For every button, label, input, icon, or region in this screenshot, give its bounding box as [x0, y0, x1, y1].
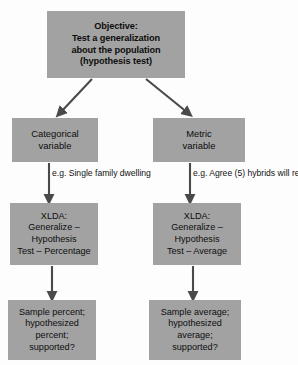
connector-objective-to-metric	[146, 79, 188, 113]
node-xlda-percentage: XLDA: Generalize – Hypothesis Test – Per…	[10, 203, 98, 265]
node-categorical-line-1: Categorical	[31, 128, 78, 140]
node-metric-variable: Metric variable	[153, 118, 245, 162]
node-categorical-variable: Categorical variable	[12, 118, 98, 162]
node-result-right-line-2: hypothesized	[168, 318, 222, 330]
node-result-right-line-3: average;	[177, 330, 212, 342]
node-metric-line-1: Metric	[186, 128, 212, 140]
node-xlda-average: XLDA: Generalize – Hypothesis Test – Ave…	[153, 203, 241, 265]
node-result-average: Sample average; hypothesized average; su…	[149, 300, 241, 360]
node-xlda-right-line-4: Test – Average	[167, 246, 227, 258]
edge-label-categorical-line-1: e.g. Single family	[52, 168, 117, 178]
node-objective-line-4: (hypothesis test)	[80, 56, 152, 68]
node-result-left-line-3: percent;	[36, 330, 69, 342]
node-xlda-right-line-2: Generalize –	[171, 222, 223, 234]
edge-label-metric-example: e.g. Agree (5) hybrids will reduce emiss…	[193, 168, 298, 179]
edge-label-metric-line-1: e.g. Agree (5) hybrids	[193, 168, 275, 178]
node-objective: Objective: Test a generalization about t…	[47, 11, 185, 78]
node-objective-line-2: Test a generalization	[72, 33, 160, 45]
node-xlda-right-line-3: Hypothesis	[175, 234, 220, 246]
node-result-left-line-4: supported?	[29, 342, 75, 354]
node-result-right-line-1: Sample average;	[161, 307, 230, 319]
node-result-right-line-4: supported?	[172, 342, 218, 354]
node-xlda-right-line-1: XLDA:	[184, 211, 210, 223]
node-result-left-line-1: Sample percent;	[19, 307, 85, 319]
node-categorical-line-2: variable	[39, 140, 72, 152]
edge-label-metric-line-2: will reduce emissions	[278, 168, 298, 178]
node-metric-line-2: variable	[183, 140, 216, 152]
edge-label-categorical-example: e.g. Single family dwelling	[52, 168, 151, 179]
node-objective-line-3: about the population	[72, 45, 161, 57]
flowchart-diagram: Objective: Test a generalization about t…	[0, 0, 298, 365]
node-xlda-left-line-4: Test – Percentage	[17, 246, 90, 258]
node-xlda-left-line-3: Hypothesis	[32, 234, 77, 246]
node-objective-line-1: Objective:	[94, 21, 137, 33]
node-result-left-line-2: hypothesized	[25, 318, 79, 330]
node-xlda-left-line-1: XLDA:	[41, 211, 67, 223]
node-result-percent: Sample percent; hypothesized percent; su…	[8, 300, 96, 360]
edge-label-categorical-line-2: dwelling	[120, 168, 151, 178]
connector-objective-to-categorical	[60, 79, 92, 113]
node-xlda-left-line-2: Generalize –	[28, 222, 80, 234]
